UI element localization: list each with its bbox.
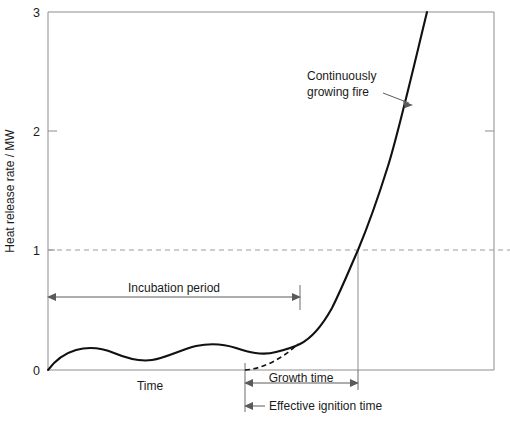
heat-release-rate-chart: 3 2 1 0 Heat release rate / MW Time Cont… [0,0,510,421]
incubation-period-label: Incubation period [128,281,220,295]
growing-fire-label-line1: Continuously [307,69,376,83]
heat-release-rate-curve [48,12,427,370]
plot-frame [48,12,494,370]
effective-ignition-time-label: Effective ignition time [269,399,382,413]
growing-fire-label-line2: growing fire [307,85,369,99]
y-tick-label-0: 0 [33,364,40,378]
y-axis-title: Heat release rate / MW [3,129,17,253]
x-axis-title: Time [137,379,164,393]
y-tick-label-1: 1 [33,244,40,258]
chart-canvas: 3 2 1 0 Heat release rate / MW Time Cont… [0,0,510,421]
y-tick-label-2: 2 [33,125,40,139]
y-tick-label-3: 3 [33,6,40,20]
y-axis-ticks [48,131,494,250]
